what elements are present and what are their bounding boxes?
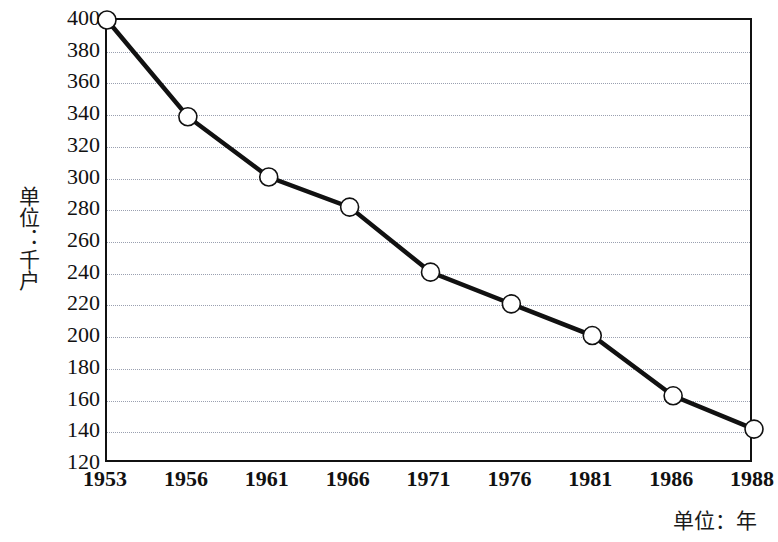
data-point-marker <box>260 168 278 186</box>
data-point-marker <box>502 295 520 313</box>
y-axis-tick-label: 140 <box>40 419 100 441</box>
data-point-marker <box>179 108 197 126</box>
x-axis-tick-label: 1971 <box>384 466 474 492</box>
x-axis-tick-label: 1986 <box>626 466 716 492</box>
y-axis-tick-label: 180 <box>40 356 100 378</box>
y-axis-tick-label: 240 <box>40 261 100 283</box>
x-axis-tick-label: 1961 <box>222 466 312 492</box>
data-point-marker <box>98 11 116 29</box>
x-axis-tick-label: 1966 <box>303 466 393 492</box>
y-axis-tick-label: 200 <box>40 324 100 346</box>
y-axis-tick-label: 340 <box>40 102 100 124</box>
y-axis-tick-label: 300 <box>40 166 100 188</box>
y-axis-tick-label-group: 4003803603403203002802602402202001801601… <box>40 0 100 542</box>
y-axis-tick-label: 280 <box>40 197 100 219</box>
y-axis-tick-label: 160 <box>40 388 100 410</box>
y-axis-tick-label: 400 <box>40 7 100 29</box>
y-axis-unit-label: 单位：千户 <box>6 186 40 291</box>
x-axis-tick-label: 1956 <box>141 466 231 492</box>
data-point-marker <box>664 387 682 405</box>
y-axis-tick-label: 380 <box>40 39 100 61</box>
data-point-marker <box>341 198 359 216</box>
series-marker-group <box>98 11 763 438</box>
y-axis-tick-label: 220 <box>40 292 100 314</box>
y-axis-tick-label: 320 <box>40 134 100 156</box>
x-axis-tick-label: 1976 <box>464 466 554 492</box>
data-point-marker <box>745 420 763 438</box>
data-series-layer <box>95 8 766 476</box>
x-axis-unit-label: 单位：年 <box>673 508 757 534</box>
plot-area <box>105 18 752 462</box>
data-point-marker <box>422 263 440 281</box>
x-axis-tick-label-group: 195319561961196619711976198119861988 <box>0 466 771 496</box>
x-axis-tick-label: 1981 <box>545 466 635 492</box>
y-axis-tick-label: 360 <box>40 70 100 92</box>
series-line <box>107 20 754 429</box>
x-axis-tick-label: 1953 <box>60 466 150 492</box>
y-axis-tick-label: 260 <box>40 229 100 251</box>
x-axis-tick-label: 1988 <box>707 466 778 492</box>
data-point-marker <box>583 327 601 345</box>
